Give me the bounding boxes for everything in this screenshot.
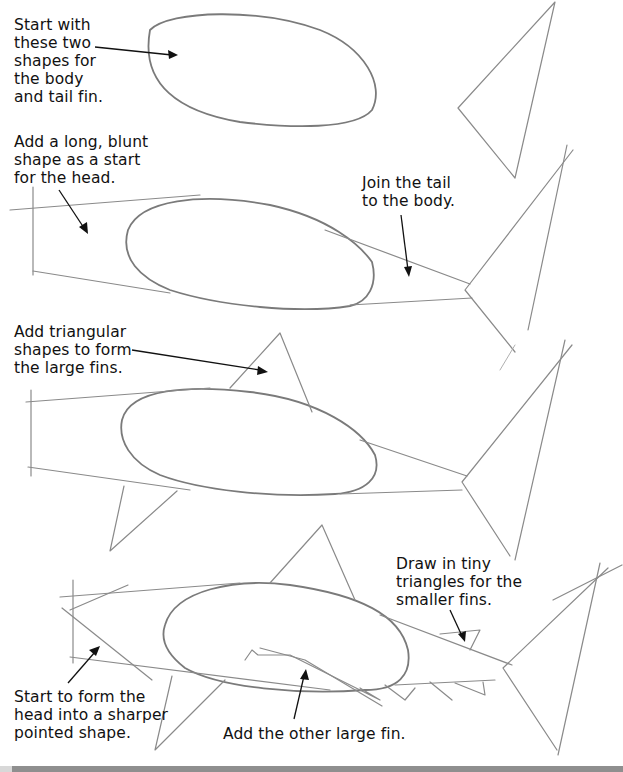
step-1-drawing: [148, 2, 555, 178]
step-4-head-caption: Start to form the head into a sharper po…: [14, 688, 168, 742]
step-1-caption: Start with these two shapes for the body…: [14, 16, 103, 106]
page-corner-edge: [0, 766, 12, 772]
page-bottom-edge: [0, 766, 623, 772]
step-4-other-fin-caption: Add the other large fin.: [223, 725, 406, 743]
step-4-small-fins-caption: Draw in tiny triangles for the smaller f…: [396, 555, 522, 609]
shark-sketch-illustration: [0, 0, 623, 772]
step-2-head-caption: Add a long, blunt shape as a start for t…: [14, 133, 148, 187]
step-2-join-caption: Join the tail to the body.: [362, 174, 455, 210]
step-3-caption: Add triangular shapes to form the large …: [14, 323, 132, 377]
drawing-tutorial-page: Start with these two shapes for the body…: [0, 0, 623, 772]
